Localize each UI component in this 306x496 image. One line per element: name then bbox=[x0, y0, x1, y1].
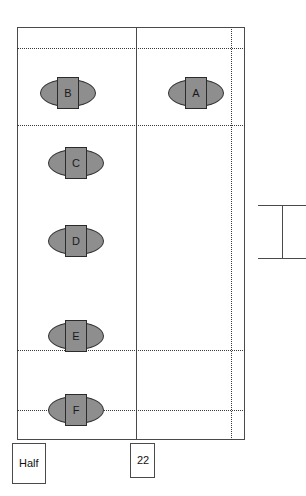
count-callout[interactable]: 22 bbox=[130, 443, 155, 478]
diagram-canvas: A B C D E F Half bbox=[0, 0, 306, 496]
count-callout-label: 22 bbox=[137, 455, 149, 466]
half-callout[interactable]: Half bbox=[12, 443, 46, 484]
dimension-bracket bbox=[0, 0, 306, 496]
half-callout-label: Half bbox=[19, 458, 39, 469]
bracket-flange-bottom bbox=[258, 258, 306, 259]
bracket-stem bbox=[282, 205, 283, 258]
